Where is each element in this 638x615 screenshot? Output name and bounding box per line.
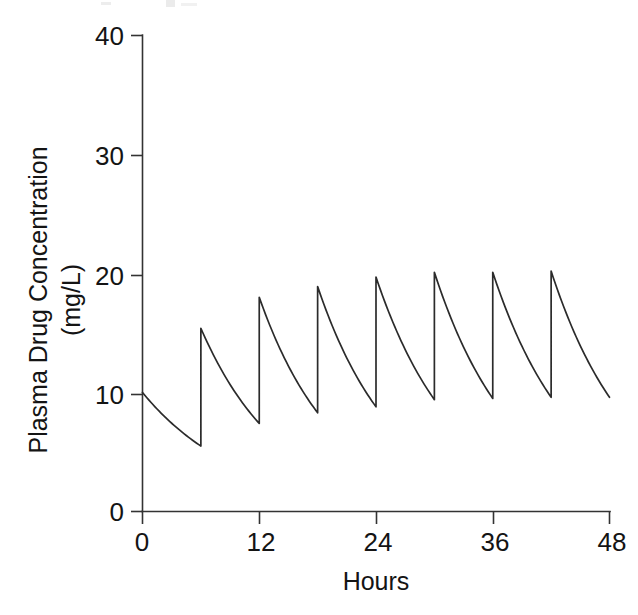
y-tick-label-40: 40 [95,21,124,51]
y-axis-title-line1: Plasma Drug Concentration [24,146,52,453]
chart-figure: 40 30 20 10 0 0 12 24 36 48 Hours Plasma… [0,0,638,615]
x-tick-label-12: 12 [247,527,276,557]
chart-background [0,0,638,615]
x-tick-label-24: 24 [364,527,393,557]
y-axis-title-line2: (mg/L) [57,264,85,336]
plasma-concentration-chart: 40 30 20 10 0 0 12 24 36 48 Hours Plasma… [0,0,638,615]
x-tick-label-36: 36 [481,527,510,557]
y-tick-label-0: 0 [110,497,124,527]
x-axis-title: Hours [343,567,410,595]
y-tick-label-10: 10 [95,380,124,410]
y-tick-label-30: 30 [95,141,124,171]
y-tick-label-20: 20 [95,261,124,291]
x-tick-label-0: 0 [135,527,149,557]
x-tick-label-48: 48 [598,527,627,557]
